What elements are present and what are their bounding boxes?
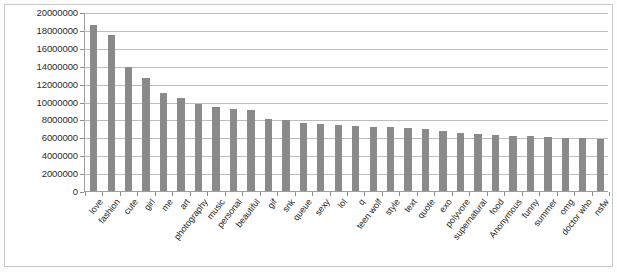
bar (125, 67, 132, 191)
bar (212, 107, 219, 191)
bar (195, 104, 202, 191)
y-axis-tick-label: 0 (73, 187, 78, 197)
bar (439, 131, 446, 191)
y-axis-tick-label: 4000000 (42, 151, 78, 161)
bar (492, 135, 499, 191)
bar (474, 134, 481, 191)
x-axis-tick-label: art (178, 197, 192, 211)
y-axis-tick-label: 14000000 (37, 62, 78, 72)
y-axis-tick-label: 8000000 (42, 115, 78, 125)
y-axis-tick-label: 16000000 (37, 44, 78, 54)
bar-chart: 0200000040000006000000800000010000000120… (0, 0, 617, 272)
bar (544, 137, 551, 191)
y-axis-tick-label: 6000000 (42, 133, 78, 143)
y-axis-tick-label: 12000000 (37, 80, 78, 90)
y-axis-tick-label: 10000000 (37, 98, 78, 108)
bar (579, 138, 586, 191)
x-axis-tick-mark (609, 192, 610, 196)
x-axis-tick-label: gif (266, 197, 280, 210)
x-axis-tick-labels: lovefashioncutegirlmeartphotographymusic… (84, 193, 608, 271)
bar (527, 136, 534, 191)
bar (387, 127, 394, 191)
bar (562, 138, 569, 191)
x-axis-tick-label: style (383, 197, 402, 217)
x-axis-tick-label: q (356, 197, 367, 207)
y-axis-tick-label: 20000000 (37, 8, 78, 18)
plot-area (84, 13, 608, 192)
x-axis-tick-label: quote (415, 197, 436, 221)
bar (422, 129, 429, 191)
bar (352, 126, 359, 191)
bar (317, 124, 324, 191)
x-axis-tick-label: sexy (313, 197, 332, 217)
x-axis-tick-label: me (159, 197, 174, 213)
x-axis-tick-label: cute (121, 197, 139, 216)
bar (509, 136, 516, 191)
bar (282, 120, 289, 191)
y-axis-tick-label: 18000000 (37, 26, 78, 36)
bar (177, 98, 184, 191)
x-axis-tick-label: lol (336, 197, 349, 210)
bar (370, 127, 377, 191)
bar (300, 123, 307, 191)
bars-layer (85, 13, 608, 191)
bar (247, 110, 254, 191)
bar (335, 125, 342, 191)
y-axis-tick-label: 2000000 (42, 169, 78, 179)
bar (597, 139, 604, 191)
bar (160, 93, 167, 191)
x-axis-tick-label: girl (142, 197, 157, 212)
bar (265, 119, 272, 191)
bar (404, 128, 411, 191)
bar (108, 35, 115, 191)
bar (90, 25, 97, 191)
bar (230, 109, 237, 191)
bar (457, 133, 464, 191)
bar (142, 78, 149, 191)
